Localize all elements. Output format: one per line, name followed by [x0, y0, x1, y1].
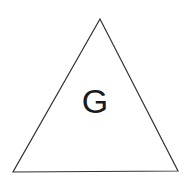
triangle-letter-label: G	[82, 82, 108, 120]
triangle-figure: G	[0, 0, 191, 186]
figure-canvas: G	[0, 0, 191, 186]
